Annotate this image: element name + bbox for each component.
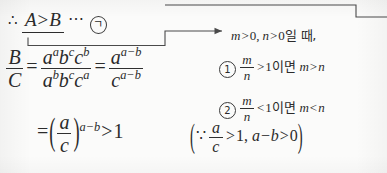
simplified-numerator: aa−b	[109, 47, 144, 67]
equals-sign-1: =	[25, 55, 38, 77]
case1-numerator-m: m	[240, 53, 253, 66]
connector-top-bracket	[165, 5, 387, 17]
reason-value-1: 1	[236, 127, 244, 144]
case1-denominator-n: n	[242, 69, 253, 82]
case2-numerator-m: m	[240, 94, 253, 107]
simplified-num-base: a	[111, 46, 121, 68]
reason-value-2: 0	[290, 127, 298, 144]
side-note-case-1: 1 m n >1이면m>n	[219, 53, 325, 83]
case2-result-right: n	[318, 100, 325, 115]
term-c-base: c	[74, 69, 83, 91]
variable-n: n	[262, 28, 269, 43]
case1-fraction-m-over-n: m n	[240, 53, 254, 83]
scanned-math-solution-page: ∴A>B⋯ㄱ B C = aabccb abbcca = aa−b ca−b =…	[0, 0, 387, 173]
case1-korean-if: 이면	[272, 59, 296, 74]
case1-result-right: n	[318, 59, 325, 74]
condition-korean-tail: 일 때,	[285, 28, 316, 43]
term-c-exponent: b	[83, 45, 89, 59]
final-derivation-line: =( a c )a−b>1	[36, 112, 124, 156]
fraction-simplified: aa−b ca−b	[109, 47, 144, 91]
arrowhead-to-condition	[215, 28, 223, 34]
equals-sign-2: =	[93, 55, 106, 77]
main-derivation-line: B C = aabccb abbcca = aa−b ca−b	[4, 47, 145, 91]
simplified-denominator: ca−b	[109, 70, 143, 90]
circled-number-2: 2	[219, 102, 236, 119]
therefore-symbol: ∴	[8, 12, 18, 28]
case1-result-left: m	[299, 59, 308, 74]
fraction-B-over-C: B C	[6, 47, 23, 91]
equals-sign-3: =	[36, 120, 49, 142]
term-a-base: a	[43, 69, 53, 91]
simplified-num-exponent: a−b	[121, 45, 142, 59]
condition-comma: ,	[256, 28, 259, 43]
reason-relation-2: >	[279, 127, 290, 144]
fraction-expanded: aabccb abbcca	[41, 47, 92, 91]
side-note-condition: m>0,n>0일 때,	[231, 25, 316, 44]
reason-denominator-c: c	[210, 139, 221, 155]
circled-label-giyeok: ㄱ	[90, 16, 107, 34]
relation-gt-final: >	[100, 120, 113, 142]
expanded-denominator: abbcca	[41, 70, 92, 90]
simplified-den-exponent: a−b	[120, 69, 141, 83]
fraction-a-over-c: a c	[57, 112, 71, 156]
case2-relation: <	[256, 100, 265, 115]
case1-result-relation: >	[309, 59, 318, 74]
denominator-C: C	[6, 70, 23, 90]
reason-relation-1: >	[225, 127, 236, 144]
left-paren-reason: (	[190, 118, 195, 156]
numerator-a: a	[57, 112, 71, 132]
reason-comma: ,	[244, 127, 248, 144]
case2-result-left: m	[299, 100, 308, 115]
value-one: 1	[114, 120, 124, 142]
term-a-base: a	[43, 46, 53, 68]
term-c-exponent: a	[83, 69, 89, 83]
simplified-den-base: c	[111, 69, 120, 91]
term-b-base: b	[59, 69, 69, 91]
because-symbol: ∵	[195, 127, 207, 144]
denominator-c: c	[58, 135, 71, 155]
power-exponent: a−b	[80, 120, 101, 134]
conclusion-line: ∴A>B⋯ㄱ	[8, 9, 107, 34]
numerator-B: B	[7, 47, 23, 67]
case2-korean-if: 이면	[272, 100, 296, 115]
reason-fraction-a-over-c: a c	[209, 120, 223, 156]
case2-denominator-n: n	[242, 110, 253, 123]
expanded-numerator: aabccb	[41, 47, 92, 67]
m-relation: >	[240, 28, 249, 43]
reason-expression-2: a−b	[252, 127, 279, 144]
ellipsis-dots: ⋯	[68, 10, 85, 27]
case2-result-relation: <	[309, 100, 318, 115]
left-paren-big: (	[49, 111, 55, 154]
reason-parenthetical: (∵ a c >1,a−b>0)	[190, 120, 303, 156]
n-relation: >	[269, 28, 278, 43]
underlined-inequality: A>B	[22, 9, 64, 33]
right-paren-big: )	[73, 111, 79, 154]
case2-fraction-m-over-n: m n	[240, 94, 254, 124]
right-paren-reason: )	[298, 118, 303, 156]
side-note-case-2: 2 m n <1이면m<n	[219, 94, 325, 124]
variable-m: m	[231, 28, 240, 43]
variable-A: A	[25, 9, 37, 30]
variable-B: B	[49, 9, 61, 30]
term-c-base: c	[74, 46, 83, 68]
case1-relation: >	[256, 59, 265, 74]
term-b-base: b	[59, 46, 69, 68]
relation-gt: >	[37, 9, 50, 30]
circled-number-1: 1	[219, 61, 236, 78]
